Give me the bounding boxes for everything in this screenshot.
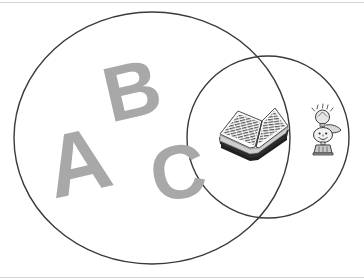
venn-diagram-svg: B A C [0, 0, 364, 280]
idea-character-icon [312, 104, 341, 155]
venn-diagram-canvas: B A C [0, 0, 364, 280]
bottom-divider-rule [0, 277, 364, 278]
lightbulb-icon [316, 110, 330, 127]
